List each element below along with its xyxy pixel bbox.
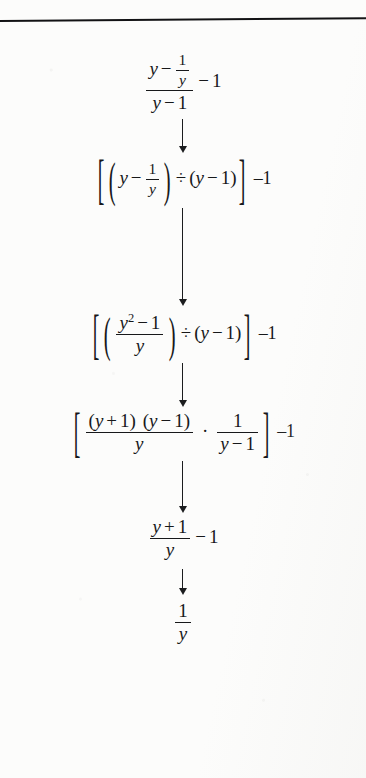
arrow-shaft: [182, 363, 183, 401]
step-1-trailing-value: 1: [212, 70, 222, 91]
denominator-operator: −: [229, 433, 246, 454]
close-parenthesis: ): [169, 310, 176, 359]
close-square-bracket: ]: [244, 307, 251, 362]
inner-fraction-denominator: y: [146, 179, 160, 198]
close-parenthesis: ): [164, 155, 171, 204]
fraction-numerator: (y+1) (y−1): [86, 411, 193, 433]
first-factor-constant: 1: [120, 410, 130, 431]
fraction-numerator: 1: [217, 411, 258, 433]
main-fraction-denominator: y−1: [146, 90, 193, 113]
inner-fraction-one-over-y: 1y: [146, 161, 160, 198]
second-factor-operator: −: [157, 410, 174, 431]
second-group-operator: −: [209, 322, 226, 343]
second-group-close-paren: ): [230, 167, 236, 188]
fraction-one-over-y: 1y: [175, 601, 191, 645]
fraction-y-plus-one-over-y: y+1y: [150, 517, 191, 561]
division-sign: ÷: [173, 167, 189, 188]
derivation-flowchart: y−1y y−1 −1 [(y−1y)÷(y−1)]–1: [0, 30, 366, 645]
arrow-step-4-to-step-5: [178, 461, 187, 513]
step-4-outer-minus-one: –1: [272, 421, 294, 441]
denominator-operator: −: [161, 92, 178, 113]
step-6-final-result: 1y: [0, 601, 366, 645]
fraction-y-squared-minus-one-over-y: y2−1y: [116, 312, 163, 357]
final-expression: 1y: [173, 601, 193, 645]
step-5-simplified-minus-one: y+1y−1: [0, 517, 366, 561]
inner-fraction-denominator: y: [176, 70, 190, 89]
open-parenthesis: (: [104, 310, 111, 359]
numerator-operator: −: [134, 312, 151, 333]
second-group-operator: −: [204, 167, 221, 188]
arrow-head: [179, 299, 187, 306]
fraction-factored-over-y: (y+1) (y−1)y: [86, 411, 193, 455]
numerator-constant: 1: [151, 312, 161, 333]
denominator-variable: y: [220, 433, 228, 454]
step-2-division-form: [(y−1y)÷(y−1)]–1: [0, 161, 366, 198]
bracketed-division-combined: [(y2−1y)÷(y−1)]–1: [90, 312, 276, 357]
denominator-variable: y: [153, 92, 161, 113]
second-group-variable: y: [200, 322, 208, 343]
second-factor-constant: 1: [174, 410, 184, 431]
multiplication-dot: ·: [195, 420, 215, 441]
fraction-denominator: y: [175, 622, 191, 645]
open-square-bracket: [: [74, 405, 81, 460]
inner-fraction-numerator: 1: [146, 161, 160, 179]
main-fraction: y−1y y−1: [146, 52, 193, 113]
step-2-outer-minus-one: –1: [249, 168, 271, 188]
complex-fraction: y−1y y−1 −1: [144, 52, 221, 113]
arrow-shaft: [182, 461, 183, 507]
step-4-factored-multiplication: [(y+1) (y−1)y·1y−1]–1: [0, 411, 366, 455]
factor-separator: [136, 410, 143, 431]
division-sign: ÷: [178, 322, 194, 343]
arrow-shaft: [182, 208, 183, 300]
step-5-trailing-operator: −: [192, 526, 209, 547]
arrow-step-1-to-step-2: [178, 119, 187, 153]
arrow-head: [179, 146, 187, 153]
bracketed-division: [(y−1y)÷(y−1)]–1: [95, 161, 271, 198]
fraction-denominator: y: [86, 432, 193, 455]
simplified-expression: y+1y−1: [148, 517, 219, 561]
arrow-shaft: [182, 569, 183, 589]
second-factor-close-paren: ): [184, 410, 190, 431]
step-5-trailing-value: 1: [209, 526, 219, 547]
numerator-variable: y: [153, 516, 161, 537]
fraction-denominator: y: [116, 334, 163, 357]
arrow-step-3-to-step-4: [178, 363, 187, 407]
numerator-operator: −: [158, 58, 175, 79]
fraction-denominator: y: [150, 538, 191, 561]
arrow-step-2-to-step-3: [178, 208, 187, 306]
step-3-outer-minus-one: –1: [254, 323, 276, 343]
top-horizontal-rule: [0, 17, 366, 22]
fraction-numerator: 1: [175, 601, 191, 623]
inner-fraction-numerator: 1: [176, 52, 190, 70]
first-factor-operator: +: [103, 410, 120, 431]
term-variable: y: [119, 167, 127, 188]
numerator-variable: y: [149, 58, 157, 79]
fraction-numerator: y+1: [150, 517, 191, 539]
first-factor-close-paren: ): [130, 410, 136, 431]
close-square-bracket: ]: [263, 405, 270, 460]
arrow-shaft: [182, 119, 183, 147]
main-fraction-numerator: y−1y: [146, 52, 193, 90]
inner-fraction-one-over-y: 1y: [176, 52, 190, 89]
second-group-close-paren: ): [235, 322, 241, 343]
bracketed-product: [(y+1) (y−1)y·1y−1]–1: [71, 411, 294, 455]
second-group-variable: y: [195, 167, 203, 188]
fraction-numerator: y2−1: [116, 312, 163, 335]
denominator-constant: 1: [178, 92, 188, 113]
fraction-one-over-y-minus-one: 1y−1: [217, 411, 258, 455]
arrow-head: [179, 588, 187, 595]
numerator-operator: +: [161, 516, 178, 537]
step-1-trailing-operator: −: [195, 70, 212, 91]
scanned-page: y−1y y−1 −1 [(y−1y)÷(y−1)]–1: [0, 0, 366, 778]
arrow-head: [179, 506, 187, 513]
open-square-bracket: [: [98, 152, 105, 207]
numerator-variable: y: [119, 312, 127, 333]
arrow-step-5-to-step-6: [178, 569, 187, 595]
second-group-constant: 1: [226, 322, 236, 343]
term-operator: −: [128, 167, 145, 188]
second-group-constant: 1: [221, 167, 231, 188]
fraction-denominator: y−1: [217, 432, 258, 455]
open-square-bracket: [: [93, 307, 100, 362]
step-3-combined-numerator: [(y2−1y)÷(y−1)]–1: [0, 312, 366, 357]
open-parenthesis: (: [109, 155, 116, 204]
